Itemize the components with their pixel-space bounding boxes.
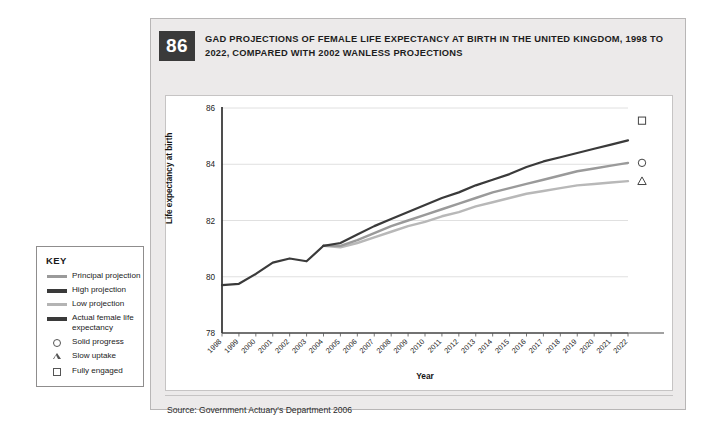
plot-card: Life expectancy at birth 788082848619981…: [165, 95, 673, 391]
x-tick-label: 2007: [358, 337, 376, 355]
y-axis-title: Life expectancy at birth: [165, 133, 174, 224]
marker-fully-engaged: [638, 117, 645, 124]
key-item-fully-engaged: Fully engaged: [46, 366, 142, 376]
x-tick-label: 2001: [256, 337, 274, 355]
x-tick-label: 2005: [324, 337, 342, 355]
figure-number-badge: 86: [159, 31, 195, 61]
key-item-label: Low projection: [68, 299, 124, 309]
x-tick-label: 2003: [290, 337, 308, 355]
x-tick-label: 1999: [222, 337, 240, 355]
key-item-label: Slow uptake: [68, 351, 116, 361]
x-tick-label: 2017: [527, 337, 545, 355]
x-tick-label: 2011: [426, 337, 444, 355]
figure-panel: 86 GAD PROJECTIONS OF FEMALE LIFE EXPECT…: [150, 18, 686, 410]
x-tick-label: 2014: [476, 337, 494, 355]
x-tick-label: 2019: [561, 337, 579, 355]
x-tick-label: 2008: [375, 337, 393, 355]
x-tick-label: 2000: [239, 337, 257, 355]
key-heading: KEY: [46, 255, 67, 266]
line-chart: 7880828486199819992000200120022003200420…: [166, 96, 672, 390]
key-item-label: Solid progress: [68, 337, 124, 347]
marker-solid-progress: [638, 159, 645, 166]
key-item-actual-female-life-expectancy: Actual female life expectancy: [46, 313, 142, 332]
line-swatch-icon: [46, 299, 68, 306]
key-items-list: Principal projection High projection Low…: [46, 271, 142, 380]
key-item-label: Fully engaged: [68, 366, 123, 376]
y-tick-label: 84: [206, 160, 216, 169]
key-legend-box: KEY Principal projection High projection…: [36, 246, 144, 387]
key-item-slow-uptake: Slow uptake: [46, 351, 142, 361]
line-swatch-icon: [46, 285, 68, 293]
x-tick-label: 2022: [611, 337, 629, 355]
figure-title-row: 86 GAD PROJECTIONS OF FEMALE LIFE EXPECT…: [159, 31, 679, 61]
y-tick-label: 86: [206, 104, 216, 113]
circle-marker-icon: [46, 337, 68, 347]
square-marker-icon: [46, 366, 68, 376]
x-tick-label: 2018: [544, 337, 562, 355]
x-tick-label: 2009: [391, 337, 409, 355]
line-swatch-icon: [46, 313, 68, 321]
x-axis-title: Year: [416, 371, 434, 381]
series-line-high-projection: [324, 140, 629, 245]
x-tick-label: 2002: [273, 337, 291, 355]
key-item-solid-progress: Solid progress: [46, 337, 142, 347]
figure-title: GAD PROJECTIONS OF FEMALE LIFE EXPECTANC…: [205, 31, 679, 61]
line-swatch-icon: [46, 271, 68, 278]
key-item-label: Principal projection: [68, 271, 140, 281]
marker-slow-uptake: [638, 177, 646, 185]
y-tick-label: 78: [206, 329, 216, 338]
y-tick-label: 80: [206, 273, 216, 282]
x-tick-label: 2012: [442, 337, 460, 355]
key-item-low-projection: Low projection: [46, 299, 142, 309]
series-line-low-projection: [324, 181, 629, 247]
key-item-label: High projection: [68, 285, 126, 295]
key-item-label: Actual female life expectancy: [68, 313, 142, 332]
x-tick-label: 2016: [510, 337, 528, 355]
x-tick-label: 2015: [493, 337, 511, 355]
series-line-actual-female-life-expectancy: [222, 246, 324, 285]
x-tick-label: 2013: [459, 337, 477, 355]
panel-divider: [165, 395, 673, 396]
x-tick-label: 2010: [408, 337, 426, 355]
series-line-principal-projection: [324, 163, 629, 246]
x-tick-label: 2021: [594, 337, 612, 355]
x-tick-label: 1998: [205, 337, 223, 355]
source-note: Source: Government Actuary's Department …: [167, 405, 352, 415]
key-item-high-projection: High projection: [46, 285, 142, 295]
x-tick-label: 2004: [307, 337, 325, 355]
triangle-marker-icon: [46, 351, 68, 359]
y-tick-label: 82: [206, 217, 216, 226]
x-tick-label: 2006: [341, 337, 359, 355]
key-item-principal-projection: Principal projection: [46, 271, 142, 281]
x-tick-label: 2020: [578, 337, 596, 355]
